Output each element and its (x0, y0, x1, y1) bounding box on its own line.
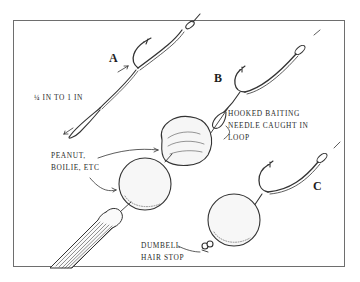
hooked-needle-label: HOOKED BAITING NEEDLE CAUGHT IN LOOP (228, 108, 309, 144)
baiting-needle-handle-icon (50, 202, 131, 268)
hair-length-label: ¼ IN TO 1 IN (34, 92, 83, 104)
panel-letter-c: C (313, 179, 322, 194)
hook-c-icon (254, 142, 340, 206)
hair-rig-illustration: A B C ¼ IN TO 1 IN HOOKED BAITING NEEDLE… (0, 0, 360, 282)
peanut-bait-icon (98, 117, 212, 166)
hair-stop-label: DUMBELL HAIR STOP (141, 240, 184, 264)
boilie-c-icon (208, 194, 260, 246)
bait-label: PEANUT, BOILIE, ETC (51, 150, 99, 174)
panel-letter-a: A (109, 51, 118, 66)
panel-letter-b: B (214, 71, 222, 86)
